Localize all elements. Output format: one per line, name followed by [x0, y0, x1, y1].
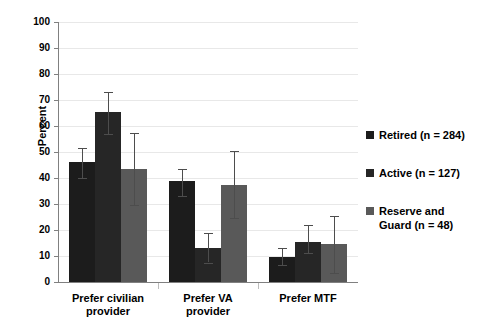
error-bar-cap-bottom: [230, 218, 239, 219]
legend-label: Reserve and Guard (n = 48): [379, 204, 453, 232]
gridline: [59, 100, 358, 101]
y-tick-label: 20: [10, 225, 50, 235]
y-tick-mark: [54, 230, 58, 231]
legend-label: Retired (n = 284): [379, 128, 465, 142]
error-bar-stem: [334, 216, 335, 273]
legend-label: Active (n = 127): [379, 166, 460, 180]
error-bar-cap-bottom: [330, 273, 339, 274]
error-bar-cap-top: [178, 169, 187, 170]
error-bar-stem: [282, 248, 283, 265]
legend-item[interactable]: Active (n = 127): [366, 166, 460, 180]
y-tick-mark: [54, 48, 58, 49]
y-tick-label: 70: [10, 95, 50, 105]
error-bar-stem: [82, 148, 83, 178]
error-bar-cap-bottom: [204, 263, 213, 264]
x-axis-line: [58, 282, 358, 283]
x-axis-separator: [258, 283, 259, 289]
y-tick-mark: [54, 100, 58, 101]
y-tick-label: 60: [10, 121, 50, 131]
error-bar-stem: [308, 225, 309, 254]
gridline: [59, 48, 358, 49]
error-bar-cap-top: [230, 151, 239, 152]
legend-swatch: [366, 207, 374, 215]
legend-item[interactable]: Retired (n = 284): [366, 128, 465, 142]
plot-area: 1009080706050403020100: [58, 22, 358, 283]
error-bar-cap-bottom: [104, 134, 113, 135]
y-tick-label: 90: [10, 43, 50, 53]
y-tick-mark: [54, 126, 58, 127]
error-bar-cap-bottom: [304, 253, 313, 254]
bar: [69, 162, 95, 282]
y-tick-mark: [54, 282, 58, 283]
y-tick-mark: [54, 74, 58, 75]
y-tick-label: 50: [10, 147, 50, 157]
error-bar-cap-top: [130, 133, 139, 134]
y-tick-label: 0: [10, 277, 50, 287]
error-bar-cap-top: [78, 148, 87, 149]
error-bar-stem: [108, 92, 109, 134]
legend-item[interactable]: Reserve and Guard (n = 48): [366, 204, 453, 232]
y-tick-label: 30: [10, 199, 50, 209]
error-bar-cap-bottom: [78, 178, 87, 179]
y-tick-mark: [54, 152, 58, 153]
x-axis-separator: [158, 283, 159, 289]
error-bar-stem: [208, 233, 209, 263]
y-tick-label: 100: [10, 17, 50, 27]
gridline: [59, 74, 358, 75]
error-bar-stem: [182, 169, 183, 196]
bar-chart-figure: Percent 1009080706050403020100 Prefer ci…: [0, 0, 495, 333]
y-tick-mark: [54, 204, 58, 205]
y-tick-mark: [54, 178, 58, 179]
bar: [95, 112, 121, 282]
error-bar-cap-top: [278, 248, 287, 249]
y-tick-mark: [54, 22, 58, 23]
error-bar-cap-top: [304, 225, 313, 226]
error-bar-stem: [134, 133, 135, 206]
error-bar-cap-top: [104, 92, 113, 93]
error-bar-cap-bottom: [278, 265, 287, 266]
y-tick-label: 10: [10, 251, 50, 261]
error-bar-stem: [234, 151, 235, 219]
x-axis-category-label: Prefer VA provider: [158, 292, 258, 318]
error-bar-cap-top: [204, 233, 213, 234]
error-bar-cap-bottom: [178, 196, 187, 197]
y-tick-label: 80: [10, 69, 50, 79]
x-axis-category-label: Prefer MTF: [258, 292, 358, 305]
gridline: [59, 22, 358, 23]
error-bar-cap-top: [330, 216, 339, 217]
legend-swatch: [366, 131, 374, 139]
x-axis-category-label: Prefer civilian provider: [58, 292, 158, 318]
error-bar-cap-bottom: [130, 205, 139, 206]
y-tick-mark: [54, 256, 58, 257]
legend-swatch: [366, 169, 374, 177]
y-tick-label: 40: [10, 173, 50, 183]
